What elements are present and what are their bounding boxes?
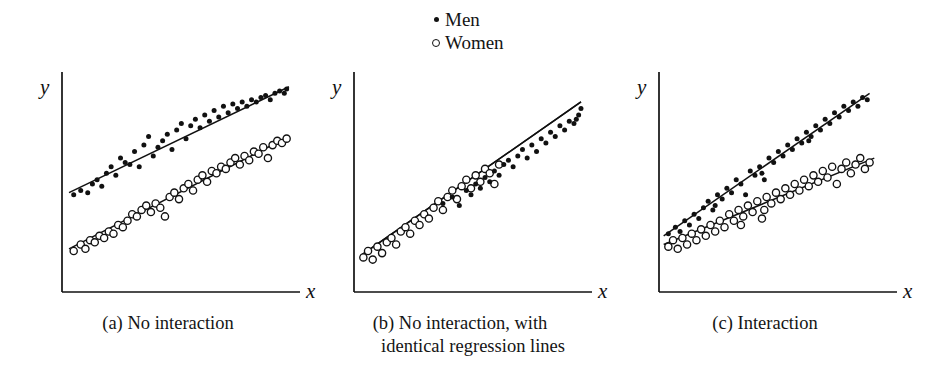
y-axis-label: y [330, 75, 342, 99]
legend-label-women: Women [444, 31, 504, 54]
panel-b-no-interaction-identical-lines: yx (b) No interaction, with identical re… [310, 60, 610, 384]
panel-a-caption-line-1: (a) No interaction [102, 313, 234, 333]
scatter-plot-b: yx [310, 60, 610, 310]
open-circle-icon [428, 39, 444, 47]
x-axis-label: x [902, 279, 913, 303]
panel-b-caption: (b) No interaction, with identical regre… [310, 312, 610, 358]
panels-row: yx (a) No interaction yx (b) No interact… [0, 60, 929, 384]
scatter-plot-c: yx [615, 60, 915, 310]
y-axis-label: y [635, 75, 647, 99]
series-points-men [71, 86, 289, 197]
panel-c-interaction: yx (c) Interaction [615, 60, 915, 384]
series-points-women [665, 154, 873, 252]
panel-b-caption-line-1: (b) No interaction, with [373, 313, 548, 333]
legend-entry-men: Men [428, 8, 608, 31]
series-points-women [360, 161, 503, 263]
filled-dot-icon [428, 17, 444, 22]
x-axis-label: x [597, 279, 608, 303]
panel-c-caption: (c) Interaction [615, 312, 915, 335]
figure-container: Men Women yx (a) No interaction yx (b) N… [0, 0, 929, 384]
regression-line-men [361, 102, 581, 255]
y-axis-label: y [38, 75, 50, 99]
scatter-plot-a: yx [18, 60, 318, 310]
panel-a-no-interaction: yx (a) No interaction [18, 60, 318, 384]
legend-label-men: Men [444, 8, 480, 31]
panel-b-caption-line-2: identical regression lines [310, 335, 610, 358]
legend: Men Women [428, 8, 608, 54]
series-points-women [70, 135, 290, 255]
legend-entry-women: Women [428, 31, 608, 54]
panel-c-caption-line-1: (c) Interaction [712, 313, 817, 333]
series-points-men [440, 106, 583, 208]
panel-a-caption: (a) No interaction [18, 312, 318, 335]
